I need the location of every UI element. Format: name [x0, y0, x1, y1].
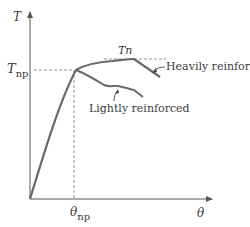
y-axis-label: T	[13, 11, 21, 23]
lightly-leader-arrow	[115, 89, 119, 94]
theta-np-subscript: np	[77, 211, 90, 222]
x-axis-label: θ	[197, 207, 204, 219]
tnp-label: Tnp	[7, 62, 29, 75]
theta-np-label: θnp	[70, 206, 90, 218]
peak-tn-label: Tn	[118, 45, 132, 56]
heavily-reinforced-label: Heavily reinforced	[166, 61, 250, 72]
torque-twist-diagram: T Tnp Tn Heavily reinforced Lightly rein…	[0, 0, 250, 227]
lightly-reinforced-curve	[76, 70, 143, 97]
lightly-reinforced-label: Lightly reinforced	[89, 103, 190, 114]
tnp-symbol: T	[7, 61, 16, 76]
tnp-subscript: np	[16, 68, 29, 79]
